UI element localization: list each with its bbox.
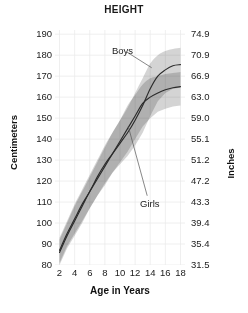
series-label-girls: Girls bbox=[140, 198, 160, 209]
y-tick-right: 43.3 bbox=[191, 197, 225, 207]
y-tick-left: 180 bbox=[20, 50, 52, 60]
y-axis-left-title: Centimeters bbox=[8, 107, 19, 179]
y-tick-left: 120 bbox=[20, 176, 52, 186]
chart-title: HEIGHT bbox=[0, 4, 248, 15]
y-tick-right: 55.1 bbox=[191, 134, 225, 144]
x-tick: 4 bbox=[67, 267, 83, 278]
y-tick-left: 100 bbox=[20, 218, 52, 228]
height-growth-chart: HEIGHT 809010011012013014015016017018019… bbox=[0, 0, 248, 313]
y-tick-left: 150 bbox=[20, 113, 52, 123]
y-axis-left-ticks: 8090100110120130140150160170180190 bbox=[14, 30, 52, 265]
x-tick: 10 bbox=[112, 267, 128, 278]
x-tick: 2 bbox=[52, 267, 68, 278]
y-tick-left: 80 bbox=[20, 260, 52, 270]
x-tick: 6 bbox=[82, 267, 98, 278]
x-tick: 16 bbox=[157, 267, 173, 278]
y-tick-left: 140 bbox=[20, 134, 52, 144]
y-tick-right: 35.4 bbox=[191, 239, 225, 249]
plot-area bbox=[55, 30, 185, 265]
y-tick-left: 130 bbox=[20, 155, 52, 165]
x-axis-title: Age in Years bbox=[30, 285, 210, 296]
x-tick: 12 bbox=[127, 267, 143, 278]
x-tick: 8 bbox=[97, 267, 113, 278]
y-tick-right: 70.9 bbox=[191, 50, 225, 60]
y-tick-right: 51.2 bbox=[191, 155, 225, 165]
y-tick-right: 66.9 bbox=[191, 71, 225, 81]
y-tick-left: 90 bbox=[20, 239, 52, 249]
y-tick-right: 39.4 bbox=[191, 218, 225, 228]
y-tick-left: 170 bbox=[20, 71, 52, 81]
y-tick-left: 110 bbox=[20, 197, 52, 207]
series-label-boys: Boys bbox=[112, 45, 133, 56]
y-tick-right: 31.5 bbox=[191, 260, 225, 270]
y-tick-right: 59.0 bbox=[191, 113, 225, 123]
x-tick: 18 bbox=[173, 267, 189, 278]
y-tick-left: 190 bbox=[20, 29, 52, 39]
y-tick-right: 47.2 bbox=[191, 176, 225, 186]
y-axis-right-title: Inches bbox=[225, 133, 236, 195]
y-tick-right: 63.0 bbox=[191, 92, 225, 102]
y-tick-left: 160 bbox=[20, 92, 52, 102]
x-tick: 14 bbox=[142, 267, 158, 278]
plot-svg bbox=[55, 30, 185, 265]
y-tick-right: 74.9 bbox=[191, 29, 225, 39]
x-axis-ticks: 24681012141618 bbox=[55, 267, 185, 281]
